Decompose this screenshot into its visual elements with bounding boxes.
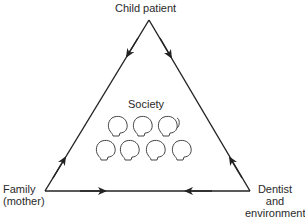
head-icon (108, 116, 127, 136)
arrows (53, 38, 242, 191)
node-family: Family (mother) (3, 183, 45, 207)
arrow-child-to-family (127, 38, 138, 56)
arrow-child-to-dentist (160, 38, 171, 57)
head-icon (158, 116, 177, 136)
node-dentist-environment: Dentist and environment (245, 183, 305, 219)
head-icon (120, 140, 139, 160)
group-of-heads-icon (96, 116, 191, 160)
dentist-label-line3: environment (245, 207, 305, 219)
arrow-dentist-to-child (230, 158, 242, 178)
arrow-family-to-child (53, 158, 65, 178)
family-label-line1: Family (3, 183, 45, 195)
head-icon (96, 140, 115, 160)
dentist-label-line2: and (245, 195, 305, 207)
family-label-line2: (mother) (3, 195, 45, 207)
node-child-patient: Child patient (115, 2, 176, 14)
head-icon (172, 140, 191, 160)
head-icon (146, 140, 165, 160)
society-label: Society (128, 98, 164, 110)
head-icon (133, 116, 152, 136)
dentist-label-line1: Dentist (245, 183, 305, 195)
